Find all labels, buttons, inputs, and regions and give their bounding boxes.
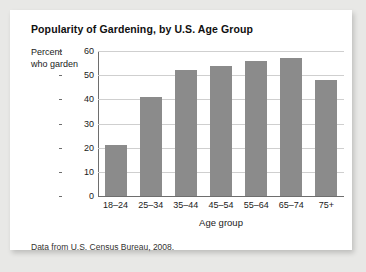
x-axis-title: Age group <box>98 217 344 228</box>
bar-35–44 <box>175 70 197 196</box>
y-tick-mark-40 <box>59 99 62 100</box>
y-tick-label-40: 40 <box>64 94 94 104</box>
y-tick-label-50: 50 <box>64 70 94 80</box>
plot-area <box>98 51 344 196</box>
y-axis-tick-labels: 0102030405060 <box>62 51 94 196</box>
y-tick-mark-0 <box>59 196 62 197</box>
bar-series <box>98 51 344 196</box>
y-tick-mark-30 <box>59 124 62 125</box>
y-tick-mark-60 <box>59 51 62 52</box>
y-tick-label-20: 20 <box>64 143 94 153</box>
x-tick-label-75+: 75+ <box>303 200 349 210</box>
bar-45–54 <box>210 66 232 197</box>
y-tick-label-30: 30 <box>64 119 94 129</box>
bar-25–34 <box>140 97 162 196</box>
bar-18–24 <box>105 145 127 196</box>
y-tick-mark-50 <box>59 75 62 76</box>
bar-75+ <box>315 80 337 196</box>
chart-card: Popularity of Gardening, by U.S. Age Gro… <box>10 10 352 250</box>
gridline-0 <box>98 196 344 197</box>
y-tick-mark-20 <box>59 148 62 149</box>
source-note: Data from U.S. Census Bureau, 2008. <box>31 242 174 252</box>
y-tick-mark-10 <box>59 172 62 173</box>
chart-title: Popularity of Gardening, by U.S. Age Gro… <box>31 23 253 35</box>
bar-55–64 <box>245 61 267 196</box>
y-tick-label-0: 0 <box>64 191 94 201</box>
y-tick-label-10: 10 <box>64 167 94 177</box>
y-tick-label-60: 60 <box>64 46 94 56</box>
x-axis-tick-labels: 18–2425–3435–4445–5455–6465–7475+ <box>98 200 344 214</box>
bar-65–74 <box>280 58 302 196</box>
